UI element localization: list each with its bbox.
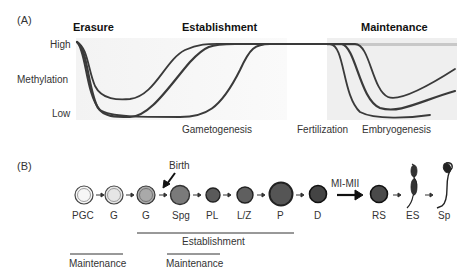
panel-b-label: (B) [17, 160, 32, 172]
elongating-spermatid-icon [407, 164, 417, 208]
establishment-label: Establishment [182, 236, 245, 247]
cell-label-es: ES [406, 210, 419, 221]
birth-arrow-icon [163, 173, 175, 188]
maintenance-label-1: Maintenance [69, 258, 126, 269]
cell-label-pl: PL [206, 210, 218, 221]
cell-label-g1: G [110, 210, 118, 221]
cell-label-g2: G [142, 210, 150, 221]
cell-label-pgc: PGC [72, 210, 94, 221]
cell-label-rs: RS [372, 210, 386, 221]
cell-label-lz: L/Z [237, 210, 251, 221]
meiosis-arrow-icon [337, 190, 363, 200]
cell-label-d: D [314, 210, 321, 221]
meiosis-label: MI-MII [331, 178, 359, 189]
cell-label-p: P [277, 210, 284, 221]
spermatozoon-icon [437, 162, 452, 208]
cell-label-sp: Sp [438, 210, 450, 221]
maintenance-label-2: Maintenance [166, 258, 223, 269]
cell-label-spg: Spg [172, 210, 190, 221]
birth-label: Birth [169, 160, 190, 171]
gametogenesis-background [76, 38, 287, 120]
